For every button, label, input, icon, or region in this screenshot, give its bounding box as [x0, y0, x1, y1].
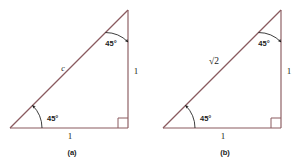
triangle-b-hypotenuse-label: √2	[209, 56, 219, 66]
triangle-panel-a: 45° 45° c 1 1 (a)	[10, 10, 138, 157]
figure-canvas: 45° 45° c 1 1 (a) 45° 45° √2 1 1 (b)	[0, 0, 300, 163]
triangle-a-base-label: 1	[68, 131, 73, 141]
triangle-a-caption: (a)	[67, 148, 77, 157]
triangle-b-vertical-label: 1	[287, 66, 292, 76]
triangle-a-right-angle-icon	[118, 118, 128, 128]
triangle-b-angle-label-top-right: 45°	[258, 39, 269, 48]
triangle-b-hypotenuse-side	[163, 10, 281, 128]
triangle-a-angle-arc-bottom-left	[33, 105, 43, 128]
triangle-b-hypotenuse-label-group: √2	[209, 56, 219, 66]
triangles-figure: 45° 45° c 1 1 (a) 45° 45° √2 1 1 (b)	[0, 0, 300, 163]
triangle-a-hypotenuse-side	[10, 10, 128, 128]
triangle-a-hypotenuse-label: c	[61, 64, 65, 73]
triangle-a-angle-label-top-right: 45°	[105, 39, 116, 48]
triangle-b-caption: (b)	[220, 148, 230, 157]
triangle-b-angle-arc-bottom-left	[186, 105, 196, 128]
triangle-panel-b: 45° 45° √2 1 1 (b)	[163, 10, 291, 157]
triangle-b-right-angle-icon	[271, 118, 281, 128]
triangle-b-base-label: 1	[221, 131, 226, 141]
triangle-b-angle-label-bottom-left: 45°	[200, 114, 211, 123]
triangle-a-angle-label-bottom-left: 45°	[47, 114, 58, 123]
triangle-a-vertical-label: 1	[134, 66, 139, 76]
